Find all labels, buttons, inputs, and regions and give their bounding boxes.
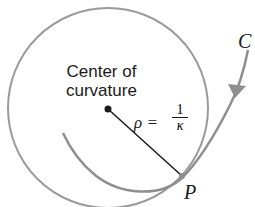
- curvature-diagram: [0, 0, 255, 207]
- fraction-denominator: κ: [172, 118, 188, 133]
- curve-c-label: C: [238, 31, 251, 51]
- curvature-fraction: 1 κ: [172, 102, 188, 133]
- point-p-label: P: [184, 182, 196, 202]
- center-label-line1: Center of: [66, 62, 137, 81]
- center-point: [105, 106, 112, 113]
- point-p-marker: [179, 173, 185, 179]
- center-label-line2: curvature: [66, 81, 137, 100]
- radius-symbol: ρ =: [134, 114, 158, 131]
- center-of-curvature-label: Center of curvature: [66, 62, 137, 100]
- fraction-numerator: 1: [172, 102, 188, 117]
- direction-arrow-icon: [228, 84, 246, 98]
